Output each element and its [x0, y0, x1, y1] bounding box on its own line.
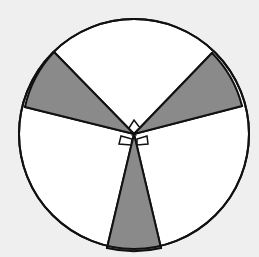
circle-diagram [0, 0, 259, 257]
